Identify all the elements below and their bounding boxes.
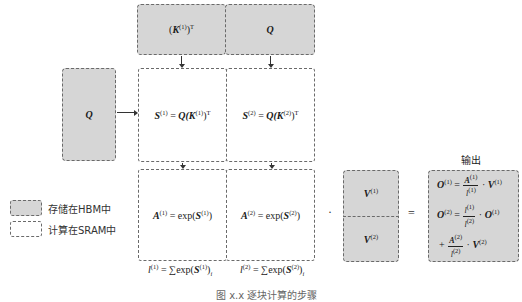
q-input-label: Q [85, 109, 92, 120]
top-right-label: Q [266, 24, 273, 35]
v2-label: V(2) [364, 233, 378, 245]
a2-block: A(2) = exp(S(2)) [226, 169, 315, 261]
k1-transpose-block: (Q(KK(1))T [137, 4, 226, 55]
equals-operator: = [408, 206, 415, 221]
o1-formula: O(1) = A(1)l(1) · V(1) [437, 174, 502, 198]
a1-formula: A(1) = exp(S(1)) [153, 209, 212, 221]
output-block: O(1) = A(1)l(1) · V(1) O(2) = l(1)l(2) ·… [428, 170, 519, 262]
s2-block: S(2) = Q(K(2))T [226, 68, 315, 162]
a2-formula: A(2) = exp(S(2)) [241, 209, 300, 221]
legend-sram-swatch [10, 221, 42, 237]
l1-formula: l(1) = ∑exp(S(1))i [148, 263, 212, 277]
arrow-k1-to-s1 [181, 56, 182, 65]
v2-block: V(2) [343, 216, 399, 262]
arrow-top2-to-s2 [270, 56, 271, 65]
o2-formula: O(2) = l(1)l(2) · O(1) [437, 204, 499, 228]
top-right-block: Q [225, 4, 315, 55]
l2-formula: l(2) = ∑exp(S(2))i [240, 263, 304, 277]
arrow-q-to-s1 [117, 112, 135, 113]
legend-hbm-swatch [10, 200, 42, 216]
arrow-s1-to-a1 [182, 163, 183, 166]
output-formulas: O(1) = A(1)l(1) · V(1) O(2) = l(1)l(2) ·… [437, 174, 502, 259]
o2-formula-continuation: + A(2)l(2) · V(2) [437, 234, 487, 258]
figure-caption: 图 x.x 逐块计算的步骤 [216, 287, 317, 302]
v1-label: V(1) [364, 187, 378, 199]
s2-formula: S(2) = Q(K(2))T [243, 109, 299, 121]
s1-formula: S(1) = Q(K(1))T [155, 109, 211, 121]
k1-transpose-label: (Q(KK(1))T [169, 23, 194, 35]
a1-block: A(1) = exp(S(1)) [138, 169, 227, 261]
q-input-block: Q [62, 68, 116, 161]
s1-block: S(1) = Q(K(1))T [138, 68, 227, 162]
v1-block: V(1) [343, 170, 399, 217]
legend-sram-label: 计算在SRAM中 [48, 222, 116, 237]
arrow-s2-to-a2 [271, 163, 272, 166]
dot-operator: · [328, 205, 332, 220]
legend-hbm-label: 存储在HBM中 [48, 201, 111, 216]
output-title: 输出 [461, 152, 481, 167]
